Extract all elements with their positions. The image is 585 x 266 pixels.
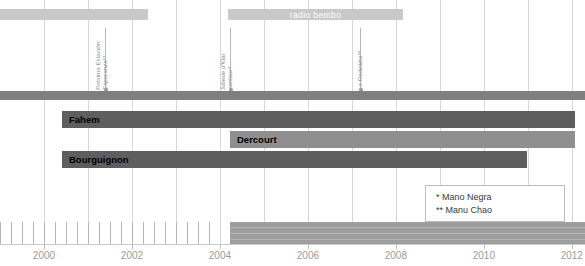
banner-radio-bembo-label: radio bembo <box>290 10 342 20</box>
axis-hatch-tick <box>55 222 56 244</box>
gridline-2000 <box>44 0 45 244</box>
axis-hatched-zone <box>0 222 230 244</box>
legend-row-mano-negra: * Mano Negra <box>436 191 554 204</box>
axis-hatch-tick <box>176 222 177 244</box>
axis-hatch-tick <box>187 222 188 244</box>
member-label-dercourt: Dercourt <box>230 134 277 145</box>
axis-label-2000: 2000 <box>33 250 55 261</box>
axis-hatch-tick <box>121 222 122 244</box>
member-bar-bourguignon: Bourguignon <box>62 151 527 168</box>
axis-solid-stripe <box>230 233 585 234</box>
axis-hatch-tick <box>154 222 155 244</box>
annotation-label-line1: Próxima Estación: <box>94 40 101 90</box>
axis-label-2002: 2002 <box>121 250 143 261</box>
axis-solid-stripe <box>230 227 585 228</box>
axis-label-2004: 2004 <box>209 250 231 261</box>
axis-hatch-tick <box>66 222 67 244</box>
axis-hatch-tick <box>198 222 199 244</box>
timeline-chart: radio bembo Próxima Estación: Esperanza*… <box>0 0 585 266</box>
annotation-label-line2: Esperanza** <box>101 40 108 90</box>
annotation-label: Próxima Estación: Esperanza** <box>94 40 108 90</box>
axis-label-2010: 2010 <box>473 250 495 261</box>
axis-tick-2002 <box>132 244 133 249</box>
axis-hatch-tick <box>143 222 144 244</box>
axis-hatch-tick <box>165 222 166 244</box>
axis-tick-2000 <box>44 244 45 249</box>
annotation-label-line2: cantaor* <box>226 53 233 90</box>
axis-hatch-tick <box>77 222 78 244</box>
member-bar-dercourt: Dercourt <box>230 131 575 148</box>
axis-tick-2012 <box>572 244 573 249</box>
annotation-label: Siberie d'Klar cantaor* <box>219 53 233 90</box>
axis-tick-2004 <box>220 244 221 249</box>
legend-row-manu-chao: ** Manu Chao <box>436 204 554 217</box>
axis-label-2008: 2008 <box>385 250 407 261</box>
axis-solid-zone <box>230 222 585 244</box>
member-label-bourguignon: Bourguignon <box>62 154 129 165</box>
banner-left <box>0 9 148 20</box>
annotation-label-line1: La Radiolina** <box>356 51 363 90</box>
axis-solid-stripe <box>230 239 585 240</box>
axis-baseline <box>0 244 585 245</box>
axis-tick-2008 <box>396 244 397 249</box>
axis-hatch-tick <box>44 222 45 244</box>
member-label-fahem: Fahem <box>62 114 100 125</box>
axis-tick-2006 <box>308 244 309 249</box>
legend: * Mano Negra ** Manu Chao <box>425 185 565 222</box>
axis-hatch-tick <box>110 222 111 244</box>
axis-hatch-tick <box>99 222 100 244</box>
annotation-label-line1: Siberie d'Klar <box>219 53 226 90</box>
era-band <box>0 91 585 100</box>
axis-label-2006: 2006 <box>297 250 319 261</box>
axis-hatch-tick <box>33 222 34 244</box>
member-bar-fahem: Fahem <box>62 111 575 128</box>
axis-hatch-tick <box>209 222 210 244</box>
axis-label-2012: 2012 <box>561 250 583 261</box>
axis-hatch-tick <box>132 222 133 244</box>
annotation-label: La Radiolina** <box>356 51 363 90</box>
axis-hatch-tick <box>0 222 1 244</box>
axis-tick-2010 <box>484 244 485 249</box>
axis-hatch-tick <box>88 222 89 244</box>
axis-hatch-tick <box>22 222 23 244</box>
banner-radio-bembo: radio bembo <box>228 9 403 20</box>
axis-hatch-tick <box>11 222 12 244</box>
